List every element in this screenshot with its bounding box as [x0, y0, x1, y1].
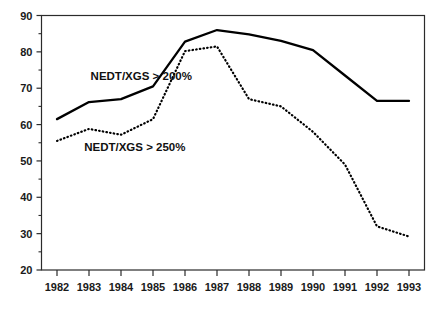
- x-tick-label-1993: 1993: [397, 281, 421, 293]
- x-tick-label-1982: 1982: [45, 281, 69, 293]
- y-tick-label-70: 70: [20, 82, 32, 94]
- x-tick-label-1989: 1989: [269, 281, 293, 293]
- x-axis-tick-labels: 1982198319841985198619871988198919901991…: [45, 281, 421, 293]
- x-tick-label-1984: 1984: [109, 281, 134, 293]
- x-tick-label-1990: 1990: [301, 281, 325, 293]
- x-tick-label-1983: 1983: [77, 281, 101, 293]
- line-chart: 2030405060708090 19821983198419851986198…: [0, 0, 442, 310]
- x-tick-label-1992: 1992: [365, 281, 389, 293]
- y-tick-label-50: 50: [20, 155, 32, 167]
- x-axis-ticks: [57, 270, 409, 276]
- y-tick-label-20: 20: [20, 264, 32, 276]
- y-tick-label-60: 60: [20, 119, 32, 131]
- chart-figure: 2030405060708090 19821983198419851986198…: [0, 0, 442, 310]
- y-tick-label-90: 90: [20, 10, 32, 22]
- x-tick-label-1991: 1991: [333, 281, 357, 293]
- x-tick-label-1988: 1988: [237, 281, 261, 293]
- y-axis-tick-labels: 2030405060708090: [20, 10, 32, 277]
- x-tick-label-1987: 1987: [205, 281, 229, 293]
- y-tick-label-80: 80: [20, 46, 32, 58]
- x-tick-label-1986: 1986: [173, 281, 197, 293]
- series-annotation-1: NEDT/XGS > 200%: [91, 70, 192, 82]
- y-tick-label-30: 30: [20, 228, 32, 240]
- series-annotation-2: NEDT/XGS > 250%: [84, 141, 185, 153]
- y-tick-label-40: 40: [20, 191, 32, 203]
- x-tick-label-1985: 1985: [141, 281, 165, 293]
